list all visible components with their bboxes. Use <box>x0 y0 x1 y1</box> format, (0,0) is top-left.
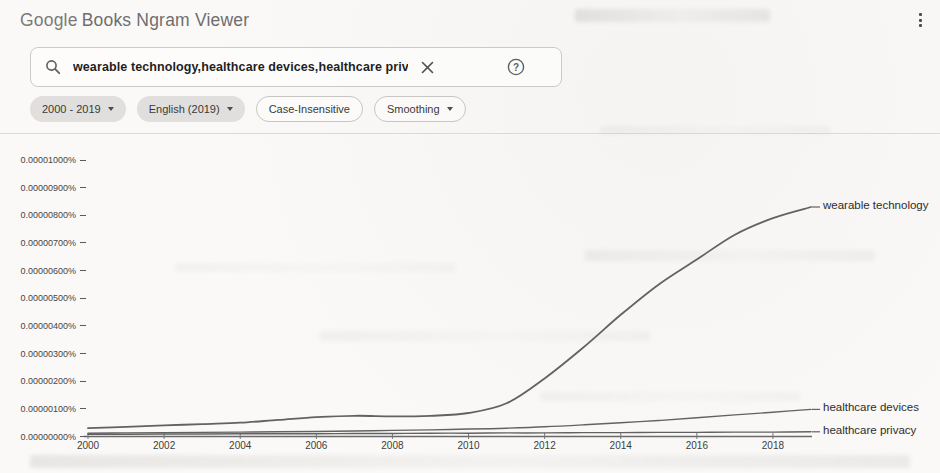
search-icon <box>45 59 61 75</box>
y-axis-tick-mark <box>80 408 86 409</box>
kebab-dot <box>919 13 922 16</box>
smoothing-label: Smoothing <box>387 103 440 115</box>
year-range-label: 2000 - 2019 <box>42 103 101 115</box>
y-axis-tick-mark <box>80 187 86 188</box>
y-axis-tick-label: 0.00000800% <box>0 209 86 221</box>
y-axis-tick-label: 0.00000500% <box>0 292 86 304</box>
y-axis-tick-mark <box>80 298 86 299</box>
google-logo: Google <box>20 10 78 30</box>
case-insensitive-chip[interactable]: Case-Insensitive <box>256 96 363 122</box>
y-axis-tick-mark <box>80 353 86 354</box>
search-input[interactable] <box>73 60 408 74</box>
ngram-chart: wearable technologyhealthcare deviceshea… <box>0 145 940 473</box>
y-axis-tick-label: 0.00000600% <box>0 265 86 277</box>
series-line-healthcare-devices[interactable] <box>88 409 811 433</box>
y-axis-tick-mark <box>80 325 86 326</box>
x-axis-tick-label: 2014 <box>601 440 641 451</box>
smoothing-chip[interactable]: Smoothing <box>374 96 466 122</box>
y-axis-tick-label: 0.00001000% <box>0 154 86 166</box>
x-axis-tick-label: 2016 <box>677 440 717 451</box>
y-axis-tick-label: 0.00000100% <box>0 403 86 415</box>
y-axis-tick-mark <box>80 160 86 161</box>
y-axis-tick-mark <box>80 436 86 437</box>
chevron-down-icon <box>108 107 114 111</box>
series-label-wearable-technology[interactable]: wearable technology <box>823 199 929 211</box>
app-title-text: Books Ngram Viewer <box>82 10 250 30</box>
header-divider <box>0 133 940 134</box>
y-axis-tick-label: 0.00000400% <box>0 320 86 332</box>
x-axis-tick-label: 2008 <box>372 440 412 451</box>
more-options-button[interactable] <box>912 10 928 30</box>
y-axis-tick-mark <box>80 270 86 271</box>
svg-text:?: ? <box>513 62 519 73</box>
corpus-label: English (2019) <box>149 103 220 115</box>
kebab-dot <box>919 24 922 27</box>
y-axis-tick-mark <box>80 242 86 243</box>
y-axis-tick-label: 0.00000900% <box>0 182 86 194</box>
question-circle-glyph: ? <box>507 58 525 76</box>
y-axis-tick-mark <box>80 215 86 216</box>
y-axis-tick-label: 0.00000300% <box>0 348 86 360</box>
x-axis-tick-label: 2010 <box>449 440 489 451</box>
y-axis-tick-label: 0.00000200% <box>0 375 86 387</box>
series-label-healthcare-privacy[interactable]: healthcare privacy <box>823 424 916 436</box>
series-line-wearable-technology[interactable] <box>88 207 811 428</box>
kebab-dot <box>919 19 922 22</box>
x-axis-tick-label: 2004 <box>220 440 260 451</box>
app-header: GoogleBooks Ngram Viewer <box>0 0 940 42</box>
x-axis-tick-label: 2012 <box>525 440 565 451</box>
search-bar: ? <box>30 47 562 87</box>
year-range-chip[interactable]: 2000 - 2019 <box>30 96 126 122</box>
chevron-down-icon <box>447 107 453 111</box>
corpus-chip[interactable]: English (2019) <box>137 96 245 122</box>
ngram-viewer-app: GoogleBooks Ngram Viewer ? <box>0 0 940 473</box>
x-axis-tick-label: 2002 <box>144 440 184 451</box>
x-axis-tick-label: 2000 <box>68 440 108 451</box>
y-axis-tick-label: 0.00000700% <box>0 237 86 249</box>
series-label-healthcare-devices[interactable]: healthcare devices <box>823 401 919 413</box>
y-axis-tick-mark <box>80 381 86 382</box>
filter-chip-row: 2000 - 2019 English (2019) Case-Insensit… <box>30 96 466 122</box>
clear-icon[interactable] <box>420 60 435 75</box>
case-insensitive-label: Case-Insensitive <box>269 103 350 115</box>
x-axis-tick-label: 2006 <box>296 440 336 451</box>
x-axis-tick-label: 2018 <box>753 440 793 451</box>
x-mark-glyph <box>420 60 435 75</box>
chart-canvas <box>0 145 940 473</box>
help-icon[interactable]: ? <box>507 58 525 76</box>
chevron-down-icon <box>227 107 233 111</box>
page-title: GoogleBooks Ngram Viewer <box>20 10 249 31</box>
